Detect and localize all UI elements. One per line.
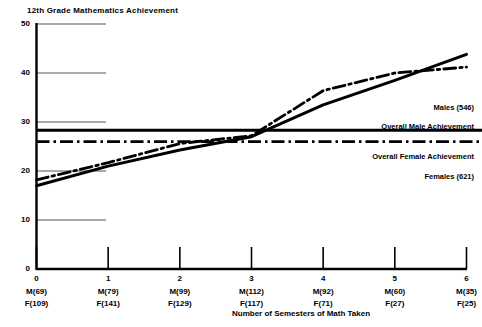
- x-tick-label: 2: [160, 274, 200, 283]
- chart-figure: 12th Grade Mathematics Achievement 01020…: [0, 0, 482, 327]
- x-tick-label: 1: [88, 274, 128, 283]
- y-tick-label: 40: [8, 68, 30, 77]
- x-tick-label: 0: [17, 274, 57, 283]
- x-sub-label-male: M(99): [157, 287, 203, 296]
- x-tick-label: 4: [303, 274, 343, 283]
- x-sub-label-female: F(109): [14, 299, 60, 308]
- x-sub-label-female: F(141): [85, 299, 131, 308]
- reference-label-overall-female: Overall Female Achievement: [372, 152, 474, 161]
- x-sub-label-male: M(60): [372, 287, 418, 296]
- x-sub-label-male: M(92): [300, 287, 346, 296]
- x-tick-label: 5: [375, 274, 415, 283]
- x-sub-label-male: M(69): [14, 287, 60, 296]
- x-sub-label-male: M(79): [85, 287, 131, 296]
- series-label-females: Females (621): [424, 172, 474, 181]
- x-sub-label-female: F(71): [300, 299, 346, 308]
- y-tick-label: 20: [8, 166, 30, 175]
- y-tick-label: 50: [8, 19, 30, 28]
- x-axis-ticks: [37, 247, 467, 269]
- x-axis-title: Number of Semesters of Math Taken: [232, 309, 370, 318]
- reference-label-overall-male: Overall Male Achievement: [381, 122, 474, 131]
- x-sub-label-female: F(117): [229, 299, 275, 308]
- axis-lines: [36, 23, 467, 270]
- y-tick-label: 0: [8, 264, 30, 273]
- gridlines: [37, 24, 107, 220]
- x-sub-label-male: M(112): [229, 287, 275, 296]
- series-lines: [37, 54, 467, 185]
- series-label-males: Males (546): [434, 103, 474, 112]
- x-tick-label: 3: [232, 274, 272, 283]
- x-sub-label-female: F(25): [444, 299, 482, 308]
- x-sub-label-female: F(129): [157, 299, 203, 308]
- x-tick-label: 6: [447, 274, 482, 283]
- y-tick-label: 10: [8, 215, 30, 224]
- y-tick-label: 30: [8, 117, 30, 126]
- x-sub-label-male: M(35): [444, 287, 482, 296]
- x-sub-label-female: F(27): [372, 299, 418, 308]
